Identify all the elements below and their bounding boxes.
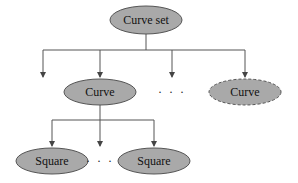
square-node[interactable]: Square [16, 148, 88, 174]
curve-node-label: Curve [85, 85, 114, 99]
arrow-down-icon [242, 72, 248, 78]
square-node-label: Square [137, 154, 170, 168]
level1-ellipsis: · · · [158, 85, 186, 99]
curve-arrowheads [49, 141, 157, 147]
level2-ellipsis: · · · [86, 154, 114, 168]
curve-node-dashed-label: Curve [230, 85, 259, 99]
arrow-down-icon [97, 141, 103, 147]
curve-node-dashed[interactable]: Curve [209, 79, 281, 105]
curve-set-hierarchy-diagram: Curve set Curve · · · Curve Square · · ·… [0, 0, 298, 183]
arrow-down-icon [151, 141, 157, 147]
square-node-label: Square [35, 154, 68, 168]
arrow-down-icon [49, 141, 55, 147]
curve-edges [52, 105, 154, 146]
root-edges [43, 34, 245, 77]
arrow-down-icon [97, 72, 103, 78]
root-node[interactable]: Curve set [110, 6, 182, 34]
arrow-down-icon [40, 72, 46, 78]
arrow-down-icon [169, 72, 175, 78]
square-node[interactable]: Square [118, 148, 190, 174]
root-node-label: Curve set [123, 13, 169, 27]
root-arrowheads [40, 72, 248, 78]
curve-node[interactable]: Curve [64, 79, 136, 105]
